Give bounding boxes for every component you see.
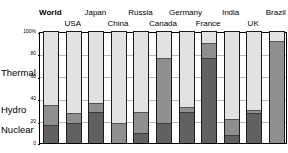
series-label-nuclear: Nuclear bbox=[1, 125, 34, 135]
bar-segment-thermal bbox=[67, 32, 81, 113]
bar-segment-nuclear bbox=[180, 112, 194, 144]
y-axis-tick bbox=[38, 100, 40, 101]
y-axis-tick bbox=[38, 123, 40, 124]
bar-japan bbox=[88, 31, 104, 143]
bar-segment-nuclear bbox=[157, 123, 171, 143]
category-label-germany: Germany bbox=[163, 8, 209, 17]
y-axis-tick bbox=[38, 78, 40, 79]
bar-china bbox=[111, 31, 127, 143]
y-axis-tick-label: 60 bbox=[8, 74, 36, 79]
y-axis-tick-label: 40 bbox=[8, 96, 36, 101]
bar-segment-thermal bbox=[247, 32, 261, 110]
bar-world bbox=[43, 31, 59, 143]
bar-segment-hydro bbox=[67, 113, 81, 123]
bar-segment-hydro bbox=[270, 41, 284, 143]
bar-canada bbox=[156, 31, 172, 143]
bar-segment-thermal bbox=[225, 32, 239, 119]
category-label-usa: USA bbox=[50, 19, 96, 28]
bar-segment-nuclear bbox=[134, 133, 148, 143]
bar-usa bbox=[66, 31, 82, 143]
category-label-russia: Russia bbox=[117, 8, 163, 17]
bar-segment-hydro bbox=[112, 123, 126, 143]
category-label-japan: Japan bbox=[72, 8, 118, 17]
category-label-world: World bbox=[27, 8, 73, 17]
category-label-uk: UK bbox=[230, 19, 276, 28]
category-label-canada: Canada bbox=[140, 19, 186, 28]
bar-segment-nuclear bbox=[247, 113, 261, 143]
plot-area bbox=[39, 32, 287, 144]
bar-segment-hydro bbox=[225, 119, 239, 135]
bar-france bbox=[201, 31, 217, 143]
bar-segment-thermal bbox=[112, 32, 126, 123]
bar-segment-thermal bbox=[44, 32, 58, 105]
bar-segment-nuclear bbox=[89, 112, 103, 144]
category-label-china: China bbox=[95, 19, 141, 28]
bar-segment-thermal bbox=[134, 32, 148, 112]
bar-segment-thermal bbox=[157, 32, 171, 58]
bar-segment-hydro bbox=[202, 43, 216, 58]
bar-segment-thermal bbox=[270, 32, 284, 41]
y-axis-tick-label: 80 bbox=[8, 51, 36, 56]
y-axis-tick bbox=[38, 55, 40, 56]
y-axis-tick-label: 0 bbox=[8, 141, 36, 146]
bar-segment-nuclear bbox=[67, 123, 81, 143]
bar-segment-hydro bbox=[44, 105, 58, 125]
bar-segment-hydro bbox=[157, 58, 171, 123]
y-axis-tick bbox=[38, 144, 40, 145]
series-label-hydro: Hydro bbox=[1, 105, 26, 115]
category-label-brazil: Brazil bbox=[253, 8, 288, 17]
bar-segment-nuclear bbox=[225, 135, 239, 143]
bar-brazil bbox=[269, 31, 285, 143]
stacked-bar-chart: WorldUSAJapanChinaRussiaCanadaGermanyFra… bbox=[0, 0, 288, 153]
bar-russia bbox=[133, 31, 149, 143]
y-axis-tick-label: 20 bbox=[8, 119, 36, 124]
y-axis-tick-label: 100% bbox=[8, 29, 36, 34]
category-label-india: India bbox=[208, 8, 254, 17]
bar-uk bbox=[246, 31, 262, 143]
bar-segment-thermal bbox=[202, 32, 216, 43]
bar-segment-thermal bbox=[180, 32, 194, 107]
category-label-france: France bbox=[185, 19, 231, 28]
y-axis-tick bbox=[38, 33, 40, 34]
bar-segment-hydro bbox=[89, 103, 103, 112]
bar-segment-nuclear bbox=[44, 125, 58, 143]
bar-segment-nuclear bbox=[202, 58, 216, 143]
bar-segment-thermal bbox=[89, 32, 103, 103]
bar-germany bbox=[179, 31, 195, 143]
bar-segment-hydro bbox=[134, 112, 148, 133]
bar-india bbox=[224, 31, 240, 143]
